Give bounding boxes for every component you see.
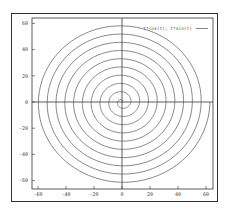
y-tick-label: 20 — [22, 73, 28, 79]
spiral-curve — [38, 26, 210, 182]
y-tick-label: 0 — [25, 99, 28, 105]
y-tick-label: -60 — [19, 177, 28, 183]
x-tick-label: 60 — [203, 191, 209, 197]
x-tick-label: 40 — [175, 191, 181, 197]
legend-label: t*cos(t), t*sin(t) — [143, 26, 192, 31]
y-tick-label: -20 — [19, 125, 28, 131]
plot-area — [32, 18, 213, 189]
x-tick-label: 20 — [147, 191, 153, 197]
x-tick-label: 0 — [120, 191, 123, 197]
x-tick-label: -60 — [33, 191, 42, 197]
x-tick-label: -40 — [61, 191, 70, 197]
spiral-chart: -60-40-2002040606040200-20-40-60 t*cos(t… — [0, 0, 228, 213]
y-tick-label: 40 — [22, 46, 28, 52]
y-tick-label: 60 — [22, 20, 28, 26]
y-tick-label: -40 — [19, 151, 28, 157]
x-tick-label: -20 — [89, 191, 98, 197]
